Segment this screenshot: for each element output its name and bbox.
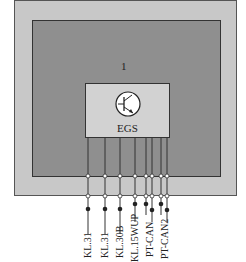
transistor-icon bbox=[86, 84, 171, 124]
pin-label-kl15wup: KL.15WUP bbox=[129, 214, 140, 262]
pin-label-kl30b: KL.30B bbox=[114, 226, 125, 259]
pin-label-pt-can: PT-CAN bbox=[144, 222, 155, 257]
pin-label-pt-can2: PT-CAN2 bbox=[159, 219, 170, 259]
pin-label-kl31-b: KL.31 bbox=[99, 232, 110, 258]
module-label: EGS bbox=[86, 122, 169, 134]
egs-module: EGS bbox=[85, 83, 170, 138]
pin-label-kl31-a: KL.31 bbox=[82, 232, 93, 258]
